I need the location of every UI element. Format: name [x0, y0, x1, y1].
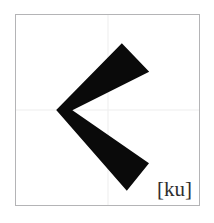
writing-box: [ku] [15, 14, 200, 206]
character-card: [ku] [0, 0, 214, 223]
reading-label: [ku] [157, 179, 192, 200]
katakana-ku-stroke [58, 45, 148, 189]
